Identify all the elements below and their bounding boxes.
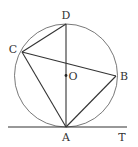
label-a: A (61, 131, 71, 144)
geometry-diagram: D C B A O T (0, 0, 138, 147)
label-d: D (62, 9, 71, 22)
center-point-o (65, 74, 68, 77)
label-o: O (68, 70, 77, 83)
label-b: B (120, 70, 128, 83)
segment-ca (22, 52, 66, 127)
segment-ba (66, 76, 116, 127)
label-t: T (118, 131, 126, 144)
label-c: C (9, 43, 17, 56)
segment-cd (22, 24, 66, 52)
